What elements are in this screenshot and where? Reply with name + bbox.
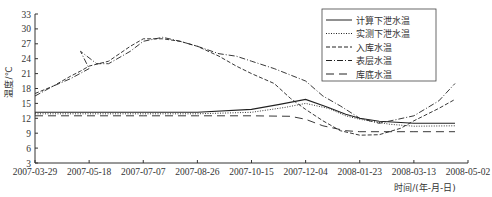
y-tick-label: 18 <box>22 84 32 94</box>
legend-label: 库底水温 <box>356 69 392 80</box>
y-tick-label: 15 <box>22 99 32 109</box>
legend-label: 计算下泄水温 <box>356 15 410 26</box>
x-tick-label: 2007-03-29 <box>13 167 58 177</box>
x-tick-label: 2007-08-26 <box>175 167 220 177</box>
y-axis-title: 温度/℃ <box>3 66 14 97</box>
legend-label: 表层水温 <box>356 55 392 66</box>
y-tick-label: 12 <box>22 114 32 124</box>
y-tick-label: 21 <box>22 69 32 79</box>
y-tick-label: 9 <box>26 129 31 139</box>
x-tick-label: 2008-03-13 <box>392 167 437 177</box>
x-tick-label: 2007-12-04 <box>283 167 328 177</box>
x-axis-title: 时间/(年-月-日) <box>394 182 456 193</box>
series-line-4 <box>35 116 455 132</box>
legend-label: 入库水温 <box>356 42 392 53</box>
y-tick-label: 33 <box>22 10 32 20</box>
x-tick-label: 2007-10-15 <box>229 167 274 177</box>
x-tick-label: 2007-05-18 <box>67 167 112 177</box>
x-tick-label: 2008-05-02 <box>446 167 491 177</box>
series-line-0 <box>35 99 455 123</box>
y-tick-label: 30 <box>22 24 32 34</box>
legend-label: 实测下泄水温 <box>356 28 410 39</box>
y-tick-label: 6 <box>26 144 31 154</box>
y-tick-label: 27 <box>22 39 32 49</box>
legend: 计算下泄水温实测下泄水温入库水温表层水温库底水温 <box>322 9 436 81</box>
series-line-1 <box>35 103 455 126</box>
line-chart: 36912151821242730332007-03-292007-05-182… <box>0 0 492 197</box>
y-tick-label: 24 <box>22 54 32 64</box>
x-tick-label: 2007-07-07 <box>121 167 166 177</box>
x-tick-label: 2008-01-23 <box>338 167 383 177</box>
